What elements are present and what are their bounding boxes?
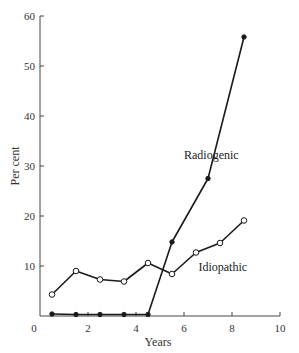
x-tick-label: 6 (181, 322, 187, 334)
series-radiogenic (50, 35, 246, 317)
open-circle-marker (49, 292, 55, 298)
annotation-idiopathic: Idiopathic (198, 260, 247, 274)
open-circle-marker (145, 260, 151, 266)
series-idiopathic (49, 218, 247, 298)
y-tick-label: 30 (24, 160, 36, 172)
x-tick-label: 2 (85, 322, 91, 334)
filled-circle-marker (170, 240, 174, 244)
x-tick-label: 10 (275, 322, 287, 334)
y-tick-label: 10 (24, 260, 36, 272)
x-axis-title: Years (145, 335, 172, 349)
filled-circle-marker (206, 176, 210, 180)
y-tick-label: 60 (24, 10, 36, 22)
series-layer (49, 35, 247, 317)
filled-circle-marker (122, 312, 126, 316)
filled-circle-marker (50, 312, 54, 316)
open-circle-marker (241, 218, 247, 224)
axes: 1020304050600246810 (24, 10, 286, 334)
filled-circle-marker (146, 312, 150, 316)
x-tick-label: 8 (229, 322, 235, 334)
x-tick-label: 0 (31, 322, 37, 334)
open-circle-marker (217, 240, 223, 246)
open-circle-marker (121, 279, 127, 285)
filled-circle-marker (242, 35, 246, 39)
open-circle-marker (73, 268, 79, 274)
filled-circle-marker (98, 312, 102, 316)
y-tick-label: 20 (24, 210, 36, 222)
annotation-radiogenic: Radiogenic (184, 148, 239, 162)
y-axis-title: Per cent (8, 146, 22, 186)
line-chart: 1020304050600246810 RadiogenicIdiopathic… (0, 0, 299, 353)
y-tick-label: 50 (24, 60, 36, 72)
y-tick-label: 40 (24, 110, 36, 122)
open-circle-marker (193, 250, 199, 256)
open-circle-marker (97, 277, 103, 283)
filled-circle-marker (74, 312, 78, 316)
open-circle-marker (169, 271, 175, 277)
x-tick-label: 4 (133, 322, 139, 334)
